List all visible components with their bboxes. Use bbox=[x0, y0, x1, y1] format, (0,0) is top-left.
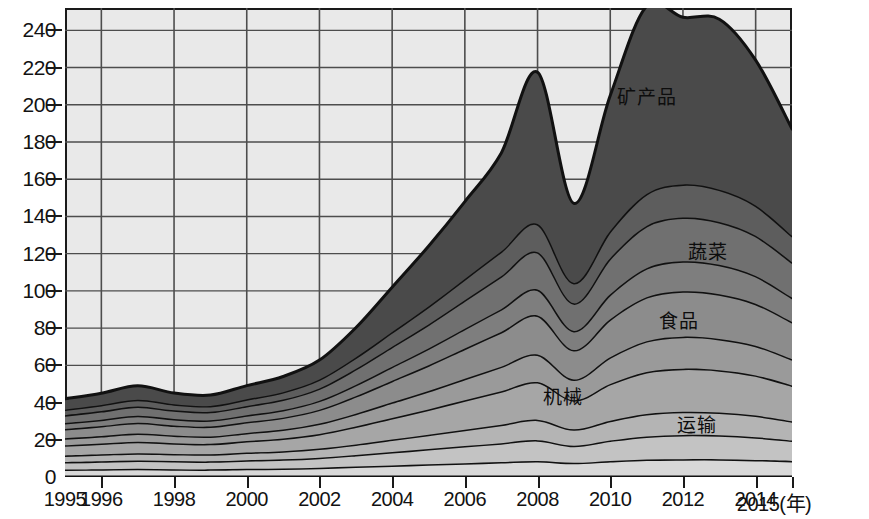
series-label: 矿产品 bbox=[617, 82, 677, 109]
x-tick-mark bbox=[101, 477, 103, 488]
y-tick-mark bbox=[46, 67, 62, 69]
series-label: 蔬菜 bbox=[688, 236, 728, 263]
area-series-layer bbox=[65, 8, 792, 477]
x-tick-label: 2012 bbox=[662, 488, 705, 511]
x-tick-label: 2008 bbox=[516, 488, 559, 511]
x-tick-mark bbox=[319, 477, 321, 488]
x-tick-label: 2004 bbox=[371, 488, 414, 511]
series-label: 食品 bbox=[659, 305, 699, 332]
series-label: 机械 bbox=[543, 382, 583, 409]
plot-area bbox=[65, 8, 792, 477]
y-tick-mark bbox=[46, 290, 62, 292]
x-tick-mark bbox=[610, 477, 612, 488]
x-tick-mark bbox=[683, 477, 685, 488]
y-tick-mark bbox=[46, 178, 62, 180]
y-tick-mark bbox=[46, 327, 62, 329]
stacked-area-chart: 020406080100120140160180200220240 矿产品蔬菜食… bbox=[0, 0, 869, 519]
x-tick-mark bbox=[756, 477, 758, 488]
y-tick-mark bbox=[46, 402, 62, 404]
y-tick-mark bbox=[46, 215, 62, 217]
x-tick-label: 2002 bbox=[298, 488, 341, 511]
x-tick-mark bbox=[247, 477, 249, 488]
x-tick-mark bbox=[792, 477, 794, 488]
x-tick-mark bbox=[538, 477, 540, 488]
y-tick-mark bbox=[46, 104, 62, 106]
y-tick-label: 0 bbox=[45, 465, 56, 489]
series-label: 运输 bbox=[677, 410, 717, 437]
x-axis-unit-label: 年 bbox=[786, 493, 806, 515]
y-axis: 020406080100120140160180200220240 bbox=[0, 8, 56, 477]
x-tick-mark bbox=[174, 477, 176, 488]
x-tick-label: 1996 bbox=[80, 488, 123, 511]
y-tick-mark bbox=[46, 439, 62, 441]
y-tick-mark bbox=[46, 29, 62, 31]
x-tick-label: 2010 bbox=[589, 488, 632, 511]
x-tick-label: 2015(年) bbox=[737, 488, 811, 517]
x-tick-label: 2000 bbox=[226, 488, 269, 511]
y-tick-mark bbox=[46, 253, 62, 255]
y-tick-mark bbox=[46, 364, 62, 366]
y-tick-mark bbox=[46, 141, 62, 143]
x-tick-label: 1998 bbox=[153, 488, 196, 511]
x-tick-mark bbox=[465, 477, 467, 488]
x-axis-labels: 1995199619982000200220042006200820102012… bbox=[0, 488, 869, 518]
x-tick-mark bbox=[392, 477, 394, 488]
x-tick-label: 2006 bbox=[444, 488, 487, 511]
